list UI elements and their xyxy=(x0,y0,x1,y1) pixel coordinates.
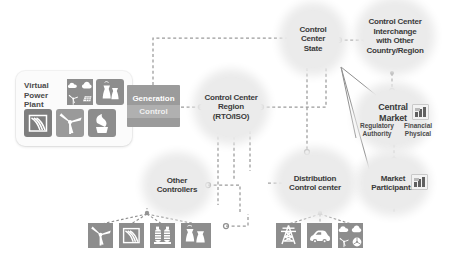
node-other-controllers: Other Controllers xyxy=(150,160,204,210)
cloud-icon xyxy=(67,79,80,92)
transformer-icon xyxy=(150,223,175,248)
node-label: Central Market xyxy=(378,102,408,124)
wind-turbine-icon xyxy=(88,223,113,248)
wind-turbine-icon xyxy=(338,236,350,248)
node-label: Other Controllers xyxy=(157,176,197,195)
cooling-towers-icon xyxy=(96,79,124,105)
node-label: Distribution Control center xyxy=(289,174,341,193)
generation-control-line1: Generation xyxy=(127,94,180,103)
cloud-icon xyxy=(338,223,350,235)
diagram-canvas: Virtual Power Plant xyxy=(0,0,454,268)
virtual-power-plant-panel: Virtual Power Plant xyxy=(16,71,132,146)
hydro-dam-icon xyxy=(24,109,52,137)
bar-chart-icon xyxy=(412,104,429,120)
node-label: Control Center State xyxy=(299,25,326,54)
solar-panel-icon xyxy=(81,93,94,106)
wind-turbine-icon xyxy=(67,93,80,106)
node-label: Control Center Region (RTO/ISO) xyxy=(204,93,257,122)
node-label: Control Center Interchange with Other Co… xyxy=(366,17,423,55)
cloud-icon xyxy=(351,223,363,235)
transmission-tower-icon xyxy=(276,223,301,248)
node-distribution-control-center: Distribution Control center xyxy=(282,155,348,211)
wind-turbine-icon xyxy=(56,109,84,137)
node-label: Market Participants xyxy=(371,174,414,193)
cooling-towers-icon xyxy=(181,223,211,248)
node-control-center-state: Control Center State xyxy=(287,10,339,68)
annotation-regulatory-authority: Regulatory Authority xyxy=(355,122,399,137)
biomass-icon xyxy=(88,109,116,137)
generation-control-block: Generation Control xyxy=(127,85,180,127)
virtual-power-plant-label: Virtual Power Plant xyxy=(24,81,64,110)
hydro-dam-icon xyxy=(119,223,144,248)
node-control-center-region: Control Center Region (RTO/ISO) xyxy=(201,77,261,137)
generation-control-line2: Control xyxy=(127,105,180,118)
mixed-resources-quad-icon xyxy=(338,223,363,248)
electric-vehicle-icon xyxy=(307,223,332,248)
turbine-fan-icon xyxy=(351,236,363,248)
bar-chart-icon xyxy=(411,174,428,190)
node-control-center-interchange: Control Center Interchange with Other Co… xyxy=(363,5,427,67)
cloud-icon xyxy=(81,79,94,92)
annotation-financial-physical: Financial Physical xyxy=(397,122,439,137)
solar-cloud-quad-icon xyxy=(67,79,93,105)
